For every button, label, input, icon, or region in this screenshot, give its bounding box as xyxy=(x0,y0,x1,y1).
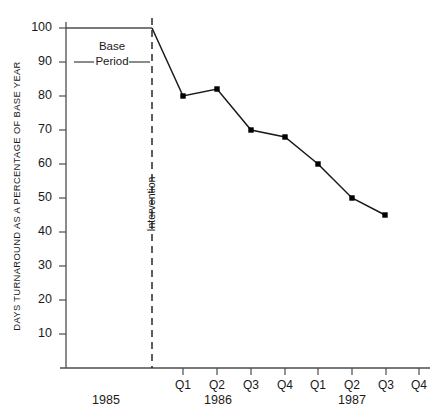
x-tick-marks xyxy=(183,368,419,375)
y-tick-marks xyxy=(59,28,66,334)
y-axis-title-text: DAYS TURNAROUND AS A PERCENTAGE OF BASE … xyxy=(11,61,22,330)
data-point xyxy=(282,134,287,139)
data-point xyxy=(315,161,320,166)
data-point xyxy=(349,195,354,200)
base-period-label-line2: Period xyxy=(77,55,147,67)
year-label-1987: 1987 xyxy=(312,393,392,407)
chart-plot-area xyxy=(0,0,446,417)
data-point xyxy=(382,212,387,217)
intervention-label-text: Intervention xyxy=(145,177,157,232)
y-axis-title: DAYS TURNAROUND AS A PERCENTAGE OF BASE … xyxy=(6,16,22,376)
intervention-label: Intervention xyxy=(141,156,155,252)
x-tick-label-1987-q4: Q4 xyxy=(399,378,439,392)
year-label-1986: 1986 xyxy=(178,393,258,407)
base-period-label-line1: Base xyxy=(77,40,147,52)
data-point xyxy=(248,127,253,132)
year-label-1985: 1985 xyxy=(66,393,146,407)
data-point-markers xyxy=(180,86,387,217)
data-point xyxy=(180,93,185,98)
data-point xyxy=(214,86,219,91)
data-line xyxy=(152,28,385,215)
chart-container: 100 90 80 70 60 50 40 30 20 10 DAYS TURN… xyxy=(0,0,446,417)
